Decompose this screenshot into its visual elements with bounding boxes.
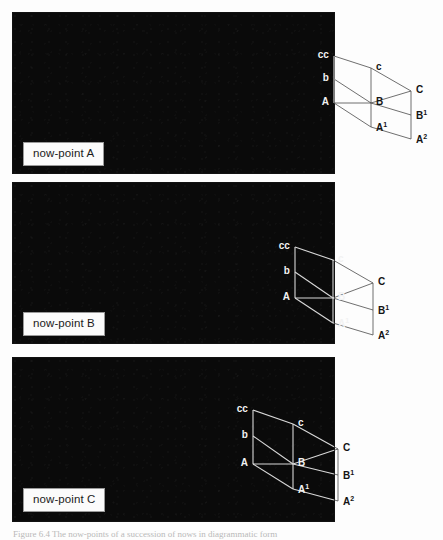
vertex-label-a2: A2 bbox=[416, 133, 427, 145]
lattice-edge bbox=[334, 103, 371, 127]
lattice-edge bbox=[334, 56, 371, 68]
lattice-edge bbox=[334, 447, 338, 449]
figure-page: cccCbBB1AA1A2cccCbBB1AA1A2cccCbBB1AA1A2 … bbox=[0, 0, 443, 540]
vertex-label-b1: B1 bbox=[343, 469, 354, 481]
vertex-label-b: B bbox=[298, 458, 305, 468]
vertex-label-a: A bbox=[0, 97, 329, 107]
vertex-label-c: c bbox=[376, 62, 382, 72]
now-point-label-box: now-point A bbox=[23, 142, 104, 166]
lattice-edge bbox=[334, 79, 371, 103]
vertex-label-a2: A2 bbox=[378, 329, 389, 341]
vertex-label-a1: A1 bbox=[298, 483, 309, 495]
lattice-edge bbox=[334, 449, 338, 450]
vertex-label-b1: B1 bbox=[416, 109, 427, 121]
vertex-label-cc: cc bbox=[0, 404, 248, 414]
vertex-label-c: C bbox=[343, 443, 350, 453]
vertex-label-b: B bbox=[376, 97, 383, 107]
vertex-label-b: b bbox=[0, 73, 329, 83]
lattice-edge bbox=[334, 474, 338, 475]
vertex-label-a1: A1 bbox=[376, 121, 387, 133]
vertex-label-b1: B1 bbox=[378, 304, 389, 316]
vertex-label-c: C bbox=[378, 277, 385, 287]
vertex-label-c: C bbox=[416, 85, 423, 95]
vertex-label-c: c bbox=[338, 254, 344, 264]
vertex-label-a1: A1 bbox=[338, 317, 349, 329]
vertex-label-cc: cc bbox=[0, 50, 329, 60]
lattice-edge bbox=[334, 500, 338, 501]
vertex-label-cc: cc bbox=[0, 241, 290, 251]
now-point-label-box: now-point B bbox=[23, 312, 105, 336]
vertex-label-c: c bbox=[298, 418, 304, 428]
figure-caption: Figure 6.4 The now-points of a successio… bbox=[13, 529, 433, 540]
now-point-label-box: now-point C bbox=[23, 488, 105, 512]
vertex-label-b: B bbox=[338, 292, 345, 302]
vertex-label-b: b bbox=[0, 430, 248, 440]
vertex-label-a2: A2 bbox=[343, 495, 354, 507]
vertex-label-b: b bbox=[0, 266, 290, 276]
vertex-label-a: A bbox=[0, 458, 248, 468]
vertex-label-a: A bbox=[0, 292, 290, 302]
